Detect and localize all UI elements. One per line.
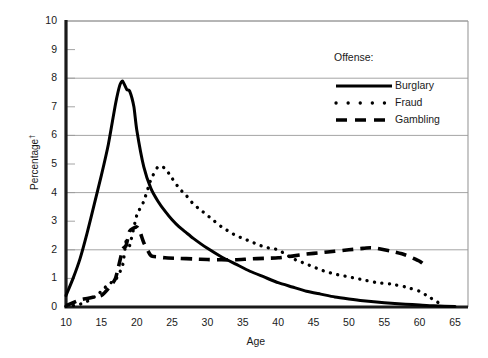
chart-container: Percentage† Age 012345678910 10152025303… [0, 0, 488, 358]
x-tick-label: 50 [337, 316, 361, 328]
x-tick-label: 65 [443, 316, 467, 328]
gridlines [66, 21, 468, 250]
x-tick-label: 55 [372, 316, 396, 328]
y-tick-label: 0 [35, 300, 57, 312]
y-tick-label: 3 [35, 214, 57, 226]
plot-frame [65, 20, 469, 307]
x-tick-label: 40 [266, 316, 290, 328]
legend-label-fraud: Fraud [395, 96, 422, 108]
y-tick-label: 9 [35, 43, 57, 55]
y-tick-label: 8 [35, 71, 57, 83]
y-tick-label: 7 [35, 100, 57, 112]
y-tick-label: 5 [35, 157, 57, 169]
legend-label-burglary: Burglary [395, 79, 434, 91]
x-tick-label: 20 [125, 316, 149, 328]
x-tick-label: 35 [231, 316, 255, 328]
y-tick-label: 4 [35, 186, 57, 198]
x-tick-label: 60 [408, 316, 432, 328]
y-tick-label: 10 [35, 14, 57, 26]
x-tick-label: 30 [195, 316, 219, 328]
x-tick-label: 25 [160, 316, 184, 328]
line-chart [0, 0, 488, 358]
x-tick-label: 45 [302, 316, 326, 328]
legend-title: Offense: [334, 51, 374, 63]
legend-line-samples [336, 86, 392, 120]
y-tick-label: 6 [35, 128, 57, 140]
x-axis-title: Age [247, 335, 266, 347]
x-tick-label: 10 [54, 316, 78, 328]
y-tick-label: 2 [35, 243, 57, 255]
series-line-fraud [66, 166, 441, 306]
x-tick-label: 15 [89, 316, 113, 328]
legend-label-gambling: Gambling [395, 113, 440, 125]
y-tick-label: 1 [35, 271, 57, 283]
